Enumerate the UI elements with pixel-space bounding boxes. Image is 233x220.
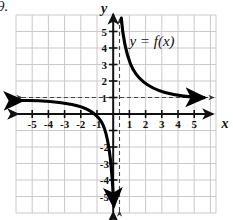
y-tick-label: 1 (102, 92, 108, 104)
x-tick-label: -3 (60, 118, 70, 130)
function-label: y = f(x) (127, 33, 174, 50)
x-tick-label: 1 (127, 118, 133, 130)
y-tick-label: -5 (100, 191, 110, 203)
y-tick-label: 3 (102, 59, 108, 71)
y-tick-label: -4 (100, 174, 110, 186)
x-tick-label: 4 (175, 118, 181, 130)
x-tick-label: 2 (143, 118, 149, 130)
x-axis-label: x (221, 116, 229, 131)
y-tick-label: 2 (102, 75, 108, 87)
x-tick-label: -4 (44, 118, 54, 130)
x-tick-label: -5 (28, 118, 38, 130)
x-tick-label: 3 (159, 118, 165, 130)
y-tick-label: 4 (102, 42, 108, 54)
y-tick-label: 5 (102, 26, 108, 38)
x-tick-label: 5 (191, 118, 197, 130)
y-tick-label: -3 (100, 158, 110, 170)
y-tick-labels-positive: 1 2 3 4 5 (102, 26, 108, 104)
x-tick-label: -2 (76, 118, 86, 130)
y-axis-label: y (99, 1, 108, 16)
exercise-graph-figure: 9. (0, 0, 233, 220)
coordinate-plane: -5 -4 -3 -2 -1 1 2 3 4 5 1 2 3 4 5 -2 -3… (0, 0, 233, 220)
